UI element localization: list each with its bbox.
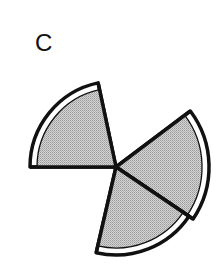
sector-upper-left — [30, 83, 116, 167]
sector-diagram — [0, 0, 221, 277]
